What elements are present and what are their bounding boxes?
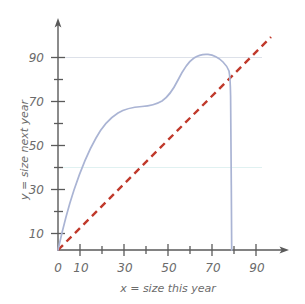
x-tick-label-70: 70 [205,261,221,275]
chart-container: 90 70 50 30 10 0 10 30 50 70 90 x = size… [0,0,305,304]
y-tick-label-10: 10 [29,227,45,241]
x-tick-label-0: 0 [54,261,62,275]
y-axis-title: y = size next year [18,98,31,201]
x-tick-label-30: 30 [117,261,133,275]
y-tick-label-90: 90 [29,51,45,65]
y-tick-label-70: 70 [29,95,45,109]
x-tick-label-10: 10 [73,261,89,275]
x-tick-label-50: 50 [161,261,177,275]
y-tick-label-50: 50 [29,139,45,153]
chart-svg: 90 70 50 30 10 0 10 30 50 70 90 x = size… [0,0,305,304]
x-tick-label-90: 90 [249,261,265,275]
y-tick-label-30: 30 [29,183,45,197]
x-axis-title: x = size this year [119,282,217,295]
chart-background [0,0,305,304]
